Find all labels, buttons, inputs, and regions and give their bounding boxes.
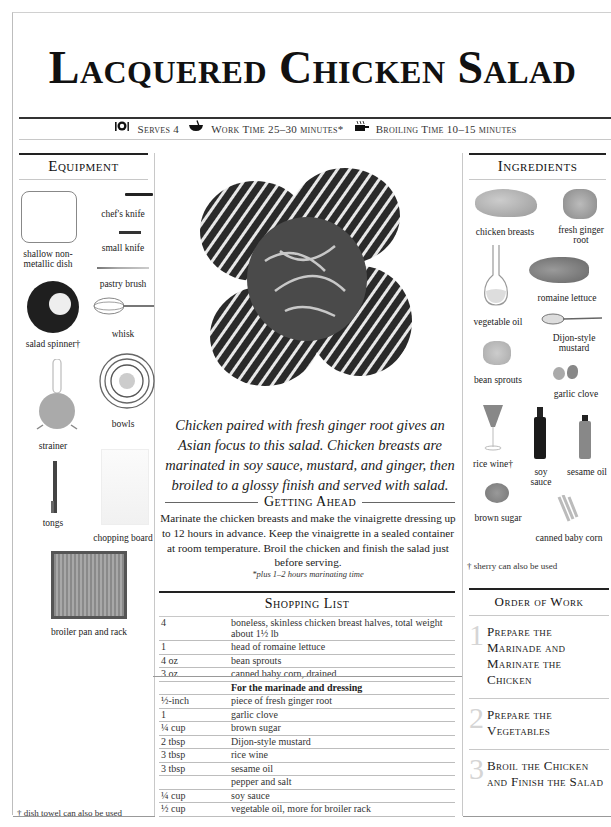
wine-glass-icon xyxy=(481,405,505,451)
ingredient-label: romaine lettuce xyxy=(525,293,609,303)
step-label: Broil the Chicken and Finish the Salad xyxy=(487,758,603,789)
equipment-label: chopping board xyxy=(91,533,155,543)
quantity-cell: ½ cup xyxy=(159,803,229,817)
main-column: Chicken paired with fresh ginger root gi… xyxy=(155,153,457,816)
quantity-cell xyxy=(159,776,229,790)
brown-sugar-icon xyxy=(485,483,509,503)
table-row: 3 tbsprice wine xyxy=(159,749,455,763)
ingredient-label: vegetable oil xyxy=(463,317,533,327)
equipment-label: pastry brush xyxy=(91,279,155,289)
item-cell: For the marinade and dressing xyxy=(229,681,455,695)
quantity-cell: 1 xyxy=(159,641,229,655)
table-row: 1head of romaine lettuce xyxy=(159,641,455,655)
table-row: 4boneless, skinless chicken breast halve… xyxy=(159,617,455,641)
item-cell: boneless, skinless chicken breast halves… xyxy=(229,617,455,641)
item-cell: soy sauce xyxy=(229,789,455,803)
garlic-icon xyxy=(553,365,579,381)
table-row: ½ cupvegetable oil, more for broiler rac… xyxy=(159,803,455,817)
place-setting-icon xyxy=(114,120,130,132)
item-cell: head of romaine lettuce xyxy=(229,641,455,655)
divider xyxy=(19,117,611,119)
divider xyxy=(19,139,611,140)
bowl-whisk-icon xyxy=(188,120,204,132)
shopping-list-heading: Shopping List xyxy=(159,591,455,617)
equipment-label: shallow non-metallic dish xyxy=(13,249,83,269)
step-label: Prepare the Vegetables xyxy=(487,707,552,738)
mustard-spoon-icon xyxy=(541,313,603,325)
page-title: Lacquered Chicken Salad xyxy=(13,41,611,94)
equipment-label: salad spinner† xyxy=(13,339,93,349)
equipment-label: whisk xyxy=(91,329,155,339)
item-cell: vegetable oil, more for broiler rack xyxy=(229,803,455,817)
ingredients-footnote: † sherry can also be used xyxy=(467,561,557,571)
small-knife-icon xyxy=(119,231,141,234)
getting-ahead-text: Marinate the chicken breasts and make th… xyxy=(159,511,457,570)
broiler-pan-icon xyxy=(51,551,127,619)
shopping-list: Shopping List 4boneless, skinless chicke… xyxy=(159,591,455,817)
ingredient-label: canned baby corn xyxy=(525,533,611,543)
serves-text: Serves 4 xyxy=(138,123,179,135)
quantity-cell: 2 tbsp xyxy=(159,735,229,749)
broiler-icon xyxy=(353,120,369,132)
step-number: 1 xyxy=(469,620,484,650)
lettuce-icon xyxy=(529,257,589,283)
table-row: ¼ cupbrown sugar xyxy=(159,722,455,736)
lacquered-chicken-salad-photo xyxy=(195,161,415,401)
bowls-icon xyxy=(99,353,155,409)
quantity-cell: ¼ cup xyxy=(159,789,229,803)
quantity-cell xyxy=(159,681,229,695)
ingredient-label: garlic clove xyxy=(541,389,611,399)
recipe-page: Lacquered Chicken Salad Serves 4 Work Ti… xyxy=(12,12,611,815)
step-number: 2 xyxy=(469,703,484,733)
chicken-breast-icon xyxy=(475,189,537,217)
ingredient-label: fresh ginger root xyxy=(551,225,611,245)
divider xyxy=(362,502,455,503)
quantity-cell: 4 oz xyxy=(159,654,229,668)
ingredient-label: chicken breasts xyxy=(467,227,543,237)
recipe-meta: Serves 4 Work Time 25–30 minutes* Broili… xyxy=(13,120,611,135)
ingredient-label: rice wine† xyxy=(463,459,523,469)
ingredient-label: Dijon-style mustard xyxy=(539,333,609,353)
divider xyxy=(13,816,155,817)
bean-sprouts-icon xyxy=(483,341,511,365)
soy-bottle-icon xyxy=(533,407,547,459)
quantity-cell: 1 xyxy=(159,708,229,722)
item-cell: canned baby corn, drained xyxy=(229,668,455,682)
strainer-icon xyxy=(35,359,79,437)
step-label: Prepare the Marinade and Marinate the Ch… xyxy=(487,624,565,687)
dish-icon xyxy=(21,191,77,243)
item-cell: pepper and salt xyxy=(229,776,455,790)
recipe-description: Chicken paired with fresh ginger root gi… xyxy=(165,415,455,495)
order-step-3: 3 Broil the Chicken and Finish the Salad xyxy=(469,750,609,800)
table-row: 1garlic clove xyxy=(159,708,455,722)
item-cell: garlic clove xyxy=(229,708,455,722)
baby-corn-icon xyxy=(557,495,579,523)
equipment-label: broiler pan and rack xyxy=(33,627,145,637)
quantity-cell: ½-inch xyxy=(159,695,229,709)
sesame-bottle-icon xyxy=(578,415,592,459)
shopping-list-table: 4boneless, skinless chicken breast halve… xyxy=(159,617,455,817)
order-step-2: 2 Prepare the Vegetables xyxy=(469,699,609,750)
item-cell: Dijon-style mustard xyxy=(229,735,455,749)
item-cell: piece of fresh ginger root xyxy=(229,695,455,709)
quantity-cell: 3 tbsp xyxy=(159,749,229,763)
tongs-icon xyxy=(49,461,63,513)
broiling-time-text: Broiling Time 10–15 minutes xyxy=(376,123,517,135)
chopping-board-icon xyxy=(101,449,149,525)
ingredients-heading: Ingredients xyxy=(469,153,606,180)
table-row: 4 ozbean sprouts xyxy=(159,654,455,668)
quantity-cell: 3 tbsp xyxy=(159,762,229,776)
table-row: 3 tbspsesame oil xyxy=(159,762,455,776)
marinating-note: *plus 1–2 hours marinating time xyxy=(159,569,457,579)
item-cell: brown sugar xyxy=(229,722,455,736)
getting-ahead-title: Getting Ahead xyxy=(264,494,356,510)
table-row: ½-inchpiece of fresh ginger root xyxy=(159,695,455,709)
pastry-brush-icon xyxy=(97,267,149,269)
ingredients-column: Ingredients chicken breasts fresh ginger… xyxy=(462,153,611,816)
divider xyxy=(153,676,463,677)
quantity-cell: 4 xyxy=(159,617,229,641)
equipment-label: small knife xyxy=(91,243,155,253)
divider xyxy=(165,502,258,503)
equipment-label: bowls xyxy=(93,419,153,429)
item-cell: bean sprouts xyxy=(229,654,455,668)
